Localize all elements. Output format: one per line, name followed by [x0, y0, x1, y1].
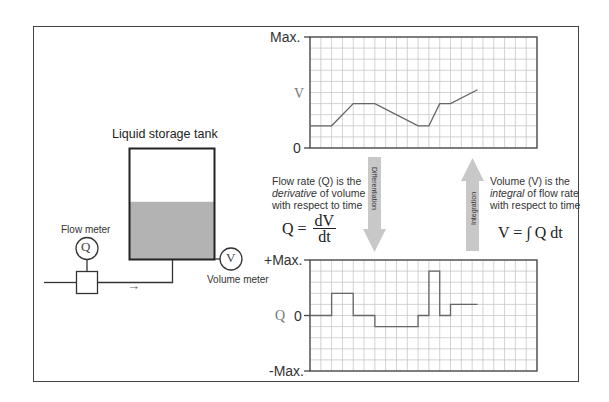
- derivative-fraction: dVdt: [313, 213, 337, 244]
- integral-formula: V = ∫ Q dt: [498, 224, 563, 242]
- integral-text-line3: with respect to time: [490, 199, 580, 211]
- q-axis-min-label: -Max.: [269, 364, 304, 378]
- derivative-formula: Q =dVdt: [282, 213, 336, 244]
- q-axis-max-label: +Max.: [264, 253, 303, 267]
- storage-tank: [130, 149, 215, 260]
- flow-meter-body: [77, 272, 98, 294]
- flow-meter-symbol: Q: [81, 241, 90, 253]
- derivative-text-line2: derivative of volume: [272, 187, 365, 199]
- volume-chart: [304, 37, 537, 148]
- flow-rate-chart: [304, 260, 537, 371]
- integral-text-line2-rest: of flow rate: [524, 187, 578, 199]
- derivative-denominator: dt: [313, 229, 337, 244]
- derivative-text-line2-rest: of volume: [317, 187, 365, 199]
- derivative-numerator: dV: [313, 213, 337, 229]
- derivative-explanation: Flow rate (Q) is the derivative of volum…: [272, 175, 365, 211]
- derivative-formula-lhs: Q =: [282, 220, 307, 237]
- q-axis-zero-label: 0: [294, 309, 302, 323]
- integral-term: integral: [490, 187, 524, 199]
- integral-text-line2: integral of flow rate: [490, 187, 580, 199]
- flow-direction-arrow-icon: →: [127, 280, 140, 292]
- volume-meter-symbol: V: [226, 252, 235, 264]
- tank-liquid: [130, 202, 215, 260]
- derivative-text-line1: Flow rate (Q) is the: [272, 175, 365, 187]
- derivative-term: derivative: [272, 187, 317, 199]
- flow-rate-trace: [310, 271, 478, 327]
- v-axis-variable-label: V: [294, 87, 304, 101]
- differentiation-label: Differentiation: [371, 164, 378, 214]
- flow-meter-label: Flow meter: [61, 224, 110, 236]
- volume-trace: [310, 90, 478, 126]
- v-axis-zero-label: 0: [293, 141, 301, 155]
- q-axis-variable-label: Q: [275, 309, 285, 323]
- v-axis-max-label: Max.: [270, 30, 300, 44]
- integration-label: Integration: [470, 184, 477, 234]
- integral-explanation: Volume (V) is the integral of flow rate …: [490, 175, 580, 211]
- derivative-text-line3: with respect to time: [272, 199, 365, 211]
- volume-meter-label: Volume meter: [207, 274, 269, 286]
- integral-text-line1: Volume (V) is the: [490, 175, 580, 187]
- tank-title: Liquid storage tank: [112, 128, 218, 140]
